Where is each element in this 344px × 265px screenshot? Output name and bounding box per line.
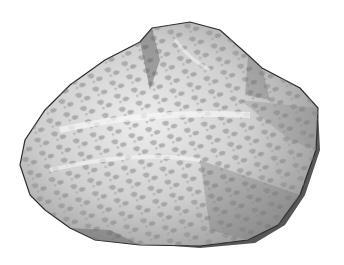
rock-illustration — [0, 0, 344, 265]
rock-drawing — [0, 0, 344, 265]
